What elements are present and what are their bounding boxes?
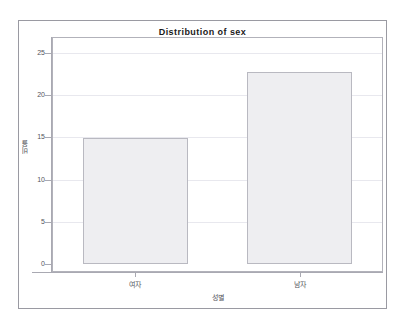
x-axis-tick-label: 여자 <box>105 279 165 289</box>
plot-area <box>53 38 382 271</box>
y-axis-tick <box>45 180 51 181</box>
y-axis-tick <box>45 222 51 223</box>
x-axis-title: 성별 <box>52 292 383 302</box>
chart-screenshot: Distribution of sex 0510152025 비율 여자남자 성… <box>0 0 407 331</box>
y-axis-tick-label-wrap: 5 <box>10 218 45 219</box>
y-axis-tick-label: 5 <box>15 218 45 225</box>
y-axis-tick-label-wrap: 25 <box>10 49 45 50</box>
y-axis-tick <box>45 264 51 265</box>
y-axis-tick-label: 10 <box>15 176 45 183</box>
chart-title: Distribution of sex <box>18 27 387 37</box>
y-axis-tick-label: 0 <box>15 260 45 267</box>
y-axis-tick-label-wrap: 15 <box>10 133 45 134</box>
y-axis-line <box>51 37 52 273</box>
y-axis-tick <box>45 95 51 96</box>
x-axis-tick <box>135 272 136 277</box>
y-axis-tick-label: 20 <box>15 91 45 98</box>
x-axis-line <box>32 272 383 273</box>
y-axis-tick-label-wrap: 10 <box>10 176 45 177</box>
y-axis-tick-label: 25 <box>15 49 45 56</box>
y-axis-tick <box>45 53 51 54</box>
y-axis-tick-label-wrap: 20 <box>10 91 45 92</box>
x-axis-tick <box>300 272 301 277</box>
y-axis-tick <box>45 137 51 138</box>
bar <box>247 72 352 264</box>
x-axis-tick-label: 남자 <box>270 279 330 289</box>
y-axis-title: 비율 <box>22 140 36 154</box>
y-axis-tick-label-wrap: 0 <box>10 260 45 261</box>
bar <box>83 138 188 264</box>
gridline <box>53 53 382 54</box>
